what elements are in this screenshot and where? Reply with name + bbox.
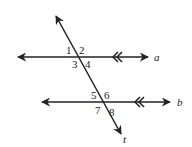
angle-5-label: 5 <box>91 89 97 101</box>
angle-6-label: 6 <box>104 89 110 101</box>
line-a-label: a <box>154 51 160 63</box>
transversal-t: t <box>56 16 127 145</box>
line-b-label: b <box>177 96 183 108</box>
angle-4-label: 4 <box>85 58 91 70</box>
transversal-t-label: t <box>123 133 127 145</box>
angle-1-label: 1 <box>66 44 72 56</box>
angle-3-label: 3 <box>72 58 78 70</box>
parallel-lines-diagram: a b t 1 2 3 4 5 6 7 8 <box>0 0 192 147</box>
diagram-svg: a b t 1 2 3 4 5 6 7 8 <box>0 0 192 147</box>
angle-7-label: 7 <box>95 104 101 116</box>
angle-8-label: 8 <box>109 106 115 118</box>
angle-2-label: 2 <box>79 44 85 56</box>
